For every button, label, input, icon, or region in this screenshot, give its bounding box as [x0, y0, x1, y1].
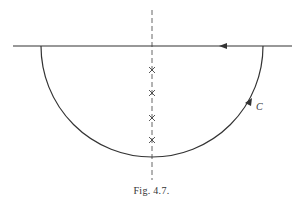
contour-label: C	[256, 101, 263, 112]
contour-diagram: C	[0, 0, 303, 203]
left-arrow-icon	[219, 43, 227, 49]
figure-caption: Fig. 4.7.	[0, 185, 303, 196]
